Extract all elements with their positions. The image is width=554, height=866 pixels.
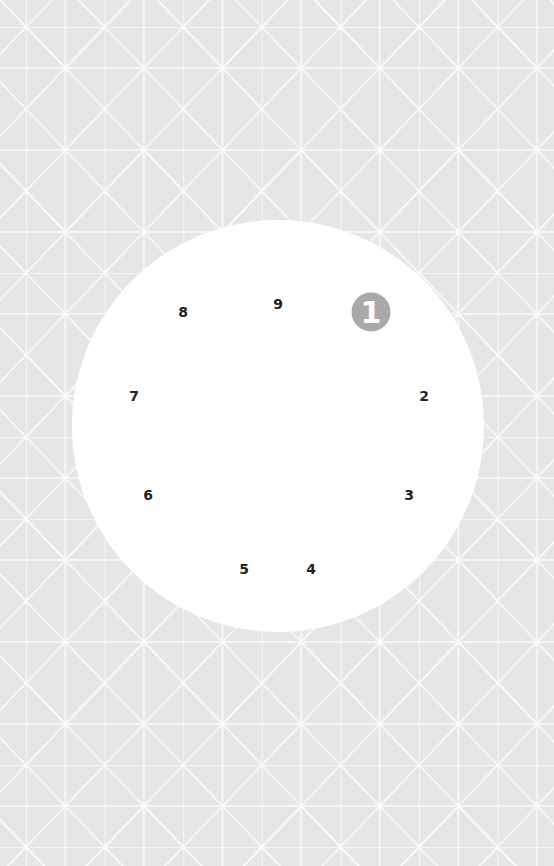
dot-point-7[interactable]: 7 [125, 385, 143, 407]
dot-point-2[interactable]: 2 [415, 385, 433, 407]
puzzle-circle [72, 220, 484, 632]
dot-point-3[interactable]: 3 [400, 484, 418, 506]
dot-point-4[interactable]: 4 [302, 558, 320, 580]
dot-point-6[interactable]: 6 [139, 484, 157, 506]
dot-point-8[interactable]: 8 [174, 301, 192, 323]
dot-point-5[interactable]: 5 [235, 558, 253, 580]
dot-point-9[interactable]: 9 [269, 293, 287, 315]
start-point-badge[interactable]: 1 [352, 293, 391, 332]
